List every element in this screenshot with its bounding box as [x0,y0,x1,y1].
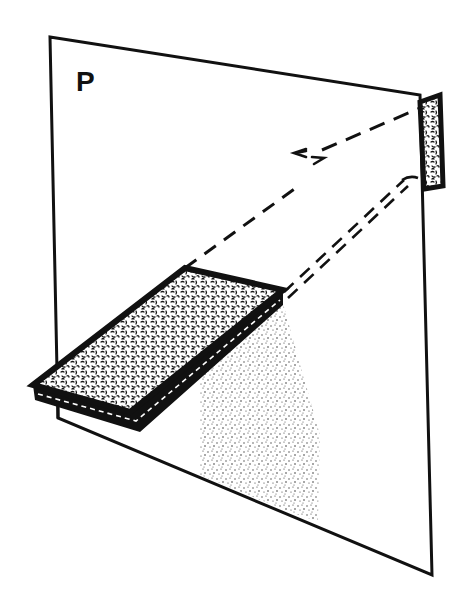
sight-line-upper [322,108,420,150]
target-rect [420,95,443,189]
eye-icon [294,149,324,164]
projection-hook [402,177,418,180]
plane-label: P [76,68,95,96]
sight-line-lower [185,185,300,268]
double-projection-line [284,180,408,298]
diagram-canvas [0,0,471,609]
